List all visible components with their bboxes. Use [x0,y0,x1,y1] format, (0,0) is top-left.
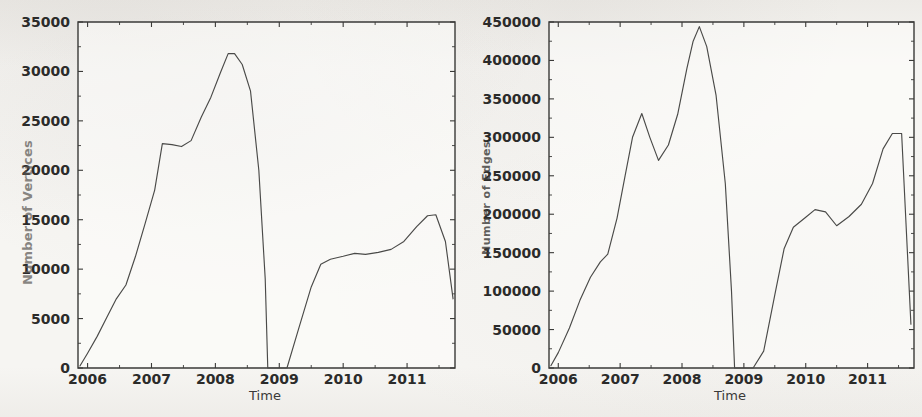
edges-x-tick-label: 2010 [786,371,825,387]
vertices-y-axis-label: Number of Vertices [20,140,35,285]
vertices-y-tick-label: 25000 [21,113,70,129]
vertices-x-tick-label: 2006 [68,371,107,387]
edges-y-tick-label: 400000 [483,52,542,68]
chart-number-of-edges: 0500001000001500002000002500003000003500… [461,0,922,417]
vertices-y-tick-label: 5000 [31,311,70,327]
vertices-x-tick-label: 2008 [196,371,235,387]
edges-y-tick-label: 50000 [492,322,541,338]
scanned-figure-page: 0500010000150002000025000300003500020062… [0,0,922,417]
edges-x-axis-label: Time [645,388,815,403]
edges-x-tick-label: 2007 [601,371,640,387]
edges-x-tick-label: 2011 [848,371,887,387]
vertices-x-tick-label: 2009 [260,371,299,387]
edges-x-tick-label: 2009 [724,371,763,387]
edges-y-tick-label: 350000 [483,91,542,107]
vertices-x-tick-label: 2011 [388,371,427,387]
vertices-x-axis-label: Time [180,388,350,403]
edges-plot-area [549,22,914,368]
chart-number-of-vertices: 0500010000150002000025000300003500020062… [0,0,461,417]
edges-x-tick-label: 2008 [663,371,702,387]
edges-y-tick-label: 100000 [483,283,542,299]
edges-y-tick-label: 450000 [483,14,542,30]
vertices-x-tick-label: 2007 [132,371,171,387]
edges-plot-canvas: 0500001000001500002000002500003000003500… [461,0,922,417]
vertices-x-tick-label: 2010 [324,371,363,387]
vertices-plot-canvas: 0500010000150002000025000300003500020062… [0,0,461,417]
vertices-y-tick-label: 30000 [21,63,70,79]
edges-y-axis-label: Number of Edges [480,141,493,255]
vertices-y-tick-label: 35000 [21,14,70,30]
edges-x-tick-label: 2006 [539,371,578,387]
